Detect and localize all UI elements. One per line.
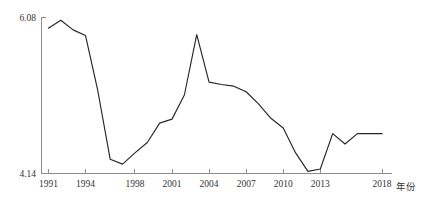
x-axis-tick-label: 2013 [311, 179, 330, 189]
data-series-group [48, 20, 382, 171]
x-axis-tick-label: 1991 [39, 179, 58, 189]
y-axis-tick-label-top: 6.08 [19, 13, 36, 23]
x-axis-tick-label: 1994 [76, 179, 95, 189]
x-axis-tick-label: 2010 [274, 179, 293, 189]
y-axis-tick-label-bottom: 4.14 [19, 169, 36, 179]
data-series-line [48, 20, 382, 171]
axes-group [41, 17, 392, 173]
x-axis-title: 年份 [396, 181, 416, 192]
x-axis-tick-label: 2004 [200, 179, 219, 189]
x-axis-tick-label: 2018 [373, 179, 392, 189]
line-chart-plot: 199119941998200120042007201020132018 6.0… [0, 0, 424, 204]
chart-container: 199119941998200120042007201020132018 6.0… [0, 0, 424, 204]
y-tick-labels-group: 6.084.14 [19, 13, 36, 179]
x-ticks-group [48, 169, 382, 173]
x-axis-tick-label: 2001 [163, 179, 182, 189]
x-axis-tick-label: 1998 [125, 179, 144, 189]
x-tick-labels-group: 199119941998200120042007201020132018 [39, 179, 392, 189]
x-axis-tick-label: 2007 [237, 179, 256, 189]
